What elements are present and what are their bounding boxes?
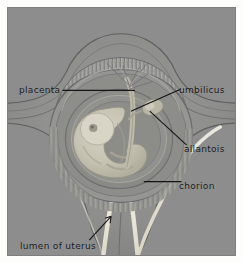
label-allantois: allantois: [184, 144, 225, 154]
uterus-embryo-illustration: [8, 8, 235, 255]
figure-root: placenta umbilicus allantois chorion lum…: [0, 0, 243, 262]
label-chorion: chorion: [179, 181, 215, 191]
label-placenta: placenta: [19, 85, 60, 95]
label-lumen-of-uterus: lumen of uterus: [20, 241, 96, 251]
anatomy-diagram-panel: placenta umbilicus allantois chorion lum…: [7, 7, 236, 256]
label-umbilicus: umbilicus: [179, 85, 225, 95]
